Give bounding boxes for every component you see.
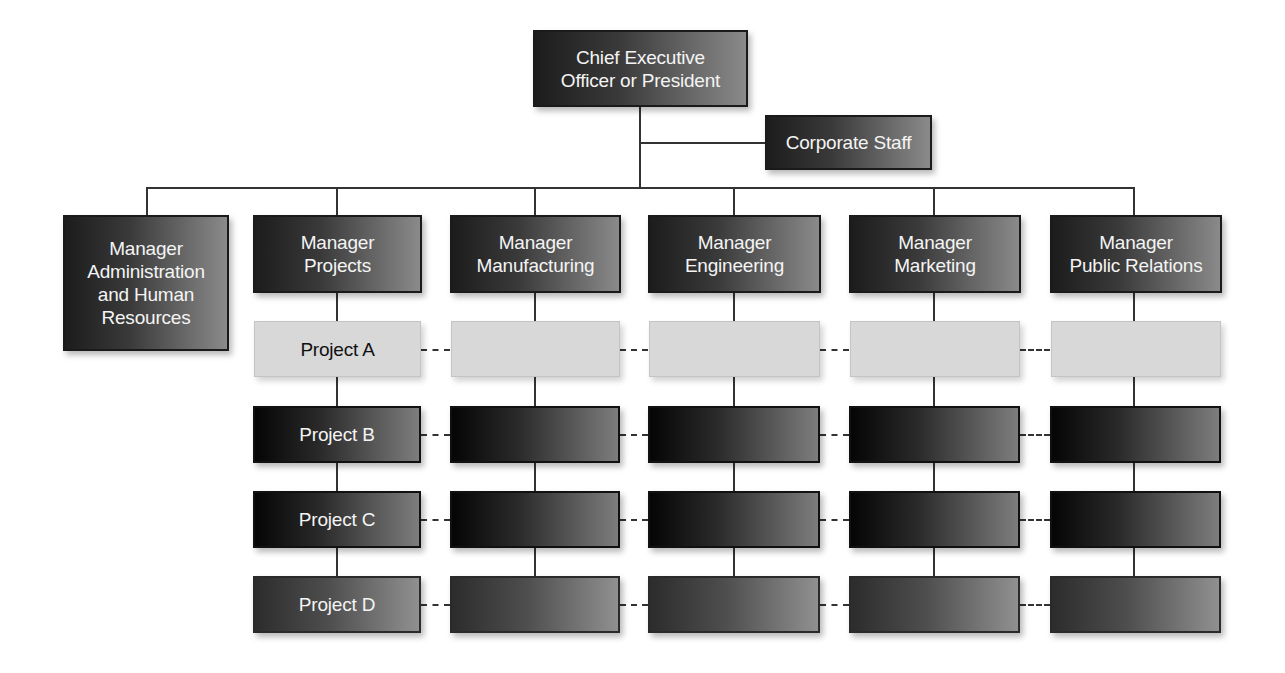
manager-public-relations-box: Manager Public Relations [1050, 215, 1222, 293]
matrix-link-c-2 [620, 519, 648, 521]
project-a-public-relations-cell [1051, 321, 1221, 377]
matrix-link-c-1 [421, 519, 450, 521]
project-a-marketing-cell [850, 321, 1020, 377]
project-d-box: Project D [253, 576, 421, 633]
manager-marketing-box: Manager Marketing [849, 215, 1021, 293]
manager-projects-label: Manager Projects [301, 231, 375, 277]
matrix-link-a-2 [620, 349, 648, 351]
manager-bus-line [146, 187, 1135, 189]
project-a-manufacturing-cell [451, 321, 620, 377]
matrix-link-c-4 [1020, 519, 1050, 521]
project-a-label: Project A [300, 338, 374, 361]
manager-manufacturing-label: Manager Manufacturing [477, 231, 595, 277]
matrix-link-c-3 [820, 519, 849, 521]
matrix-link-a-3 [820, 349, 849, 351]
matrix-link-d-1 [421, 604, 450, 606]
project-a-engineering-cell [649, 321, 820, 377]
ceo-box: Chief Executive Officer or President [533, 30, 748, 107]
ceo-vertical-connector [639, 107, 641, 188]
project-d-label: Project D [299, 593, 375, 616]
project-c-box: Project C [253, 491, 421, 548]
project-d-public-relations-cell [1050, 576, 1221, 633]
project-b-box: Project B [253, 406, 421, 463]
manager-administration-label: Manager Administration and Human Resourc… [87, 237, 205, 329]
matrix-link-b-1 [421, 434, 450, 436]
corporate-staff-connector [640, 142, 766, 144]
project-d-engineering-cell [648, 576, 820, 633]
project-c-marketing-cell [849, 491, 1020, 548]
manager-marketing-label: Manager Marketing [894, 231, 976, 277]
matrix-link-a-4 [1020, 349, 1050, 351]
manager-projects-box: Manager Projects [253, 215, 422, 293]
project-c-manufacturing-cell [450, 491, 620, 548]
project-a-box: Project A [254, 321, 421, 377]
manager-engineering-label: Manager Engineering [685, 231, 784, 277]
admin-drop-connector [146, 187, 148, 216]
project-b-engineering-cell [648, 406, 820, 463]
project-b-manufacturing-cell [450, 406, 620, 463]
matrix-link-a-1 [421, 349, 450, 351]
matrix-link-d-4 [1020, 604, 1050, 606]
project-b-marketing-cell [849, 406, 1020, 463]
project-c-label: Project C [299, 508, 375, 531]
project-d-manufacturing-cell [450, 576, 620, 633]
manager-administration-box: Manager Administration and Human Resourc… [63, 215, 229, 351]
corporate-staff-label: Corporate Staff [786, 131, 912, 154]
corporate-staff-box: Corporate Staff [765, 115, 932, 170]
matrix-link-d-2 [620, 604, 648, 606]
project-b-public-relations-cell [1050, 406, 1221, 463]
project-b-label: Project B [299, 423, 374, 446]
manager-manufacturing-box: Manager Manufacturing [450, 215, 621, 293]
matrix-link-b-3 [820, 434, 849, 436]
matrix-link-b-4 [1020, 434, 1050, 436]
manager-engineering-box: Manager Engineering [648, 215, 821, 293]
project-c-engineering-cell [648, 491, 820, 548]
ceo-label: Chief Executive Officer or President [561, 46, 720, 92]
project-c-public-relations-cell [1050, 491, 1221, 548]
matrix-link-b-2 [620, 434, 648, 436]
matrix-link-d-3 [820, 604, 849, 606]
manager-public-relations-label: Manager Public Relations [1069, 231, 1202, 277]
project-d-marketing-cell [849, 576, 1020, 633]
